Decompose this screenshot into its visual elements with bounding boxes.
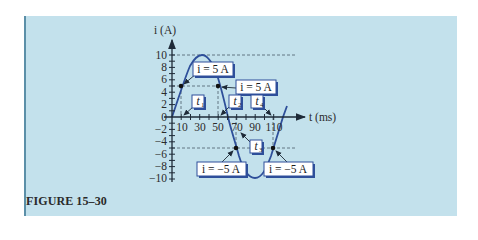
point-t4 xyxy=(271,146,276,151)
svg-text:10: 10 xyxy=(176,121,188,133)
svg-text:i = 5 A: i = 5 A xyxy=(197,63,229,75)
label-box-i-pos-1: i = 5 A xyxy=(193,62,235,78)
svg-text:i = 5 A: i = 5 A xyxy=(240,81,272,93)
y-tick-labels: 10 8 6 4 2 0 −2 −4 −6 −8 −10 xyxy=(149,49,167,184)
svg-text:−8: −8 xyxy=(155,160,167,172)
svg-text:1: 1 xyxy=(201,101,205,109)
svg-text:10: 10 xyxy=(156,49,168,61)
svg-text:70: 70 xyxy=(231,121,243,133)
svg-text:8: 8 xyxy=(161,61,167,73)
svg-text:0: 0 xyxy=(161,111,167,123)
svg-text:4: 4 xyxy=(161,86,167,98)
svg-text:6: 6 xyxy=(161,73,167,85)
svg-text:2: 2 xyxy=(238,101,242,109)
svg-text:110: 110 xyxy=(266,121,283,133)
svg-text:3: 3 xyxy=(259,146,263,154)
svg-text:i = −5 A: i = −5 A xyxy=(202,163,241,175)
point-t1 xyxy=(179,84,184,89)
svg-text:50: 50 xyxy=(212,121,224,133)
figure-caption: FIGURE 15–30 xyxy=(26,194,107,209)
svg-text:−4: −4 xyxy=(155,135,167,147)
label-box-i-neg-2: i = −5 A xyxy=(264,162,315,178)
y-axis-label: i (A) xyxy=(154,24,176,37)
svg-text:90: 90 xyxy=(249,121,261,133)
x-axis-label: t (ms) xyxy=(309,111,336,124)
svg-text:30: 30 xyxy=(194,121,206,133)
point-t2 xyxy=(216,84,221,89)
svg-text:−2: −2 xyxy=(155,123,167,135)
svg-text:4: 4 xyxy=(260,101,264,109)
svg-text:−10: −10 xyxy=(149,172,167,184)
point-t3 xyxy=(234,146,239,151)
svg-text:−6: −6 xyxy=(155,148,167,160)
label-box-i-pos-2: i = 5 A xyxy=(236,80,278,96)
label-box-i-neg-1: i = −5 A xyxy=(197,162,248,178)
svg-text:i = −5 A: i = −5 A xyxy=(269,163,308,175)
svg-text:2: 2 xyxy=(161,98,167,110)
